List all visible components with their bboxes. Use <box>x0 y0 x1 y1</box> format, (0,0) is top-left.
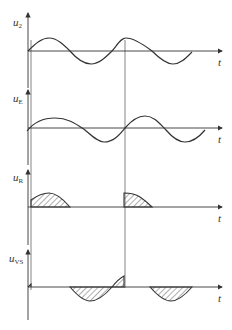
axis-label-t-2: t <box>218 134 221 145</box>
uE-waveform <box>27 116 205 142</box>
uVS-segment-negative-1 <box>70 287 112 301</box>
label-uR: uR <box>13 172 23 185</box>
uR-segment-2 <box>124 193 152 207</box>
uR-segment-1 <box>31 193 70 207</box>
axis-label-t-1: t <box>218 57 221 68</box>
label-uVS: uVS <box>9 253 23 266</box>
axis-label-t-3: t <box>218 213 221 224</box>
label-u2: u2 <box>13 17 22 30</box>
label-uE: uE <box>13 93 23 106</box>
uVS-segment-positive <box>112 276 124 287</box>
waveform-diagram <box>0 0 232 330</box>
axis-label-t-4: t <box>218 293 221 304</box>
uVS-segment-negative-2 <box>150 287 192 301</box>
panel-uE <box>27 90 222 165</box>
